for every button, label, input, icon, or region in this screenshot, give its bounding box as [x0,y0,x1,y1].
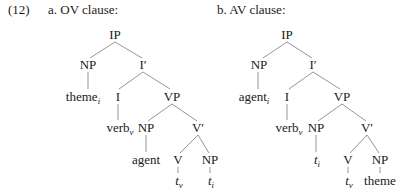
leaf-theme-i: themei [66,90,100,104]
node-i-bar: I′ [139,58,146,72]
node-vp: VP [164,90,181,104]
tree-a-heading: a. OV clause: [48,3,118,17]
node-ip: IP [109,28,121,42]
node-v-head: V [343,153,352,167]
leaf-trace-i: ti [208,174,214,188]
node-np-spec: NP [80,58,97,72]
node-v-head: V [173,153,182,167]
node-i-head: I [116,90,120,104]
tree-b-heading: b. AV clause: [217,3,286,17]
node-ip: IP [281,28,293,42]
example-number: (12) [8,3,30,17]
node-np-vp: NP [308,121,325,135]
node-i-head: I [285,90,289,104]
node-np-spec: NP [251,58,268,72]
node-vp: VP [334,90,351,104]
node-np-obj: NP [372,153,389,167]
node-np-obj: NP [202,153,219,167]
node-i-bar: I′ [309,58,316,72]
node-v-bar: V′ [192,121,204,135]
node-np-vp: NP [138,121,155,135]
leaf-agent-i: agenti [239,90,270,104]
leaf-verb-v: verbv [275,121,302,135]
leaf-agent: agent [132,153,160,167]
leaf-trace-i: ti [314,153,320,167]
leaf-verb-v: verbv [106,121,133,135]
leaf-trace-v: tv [175,174,183,188]
leaf-theme: theme [364,174,396,188]
leaf-trace-v: tv [345,174,353,188]
node-v-bar: V′ [361,121,373,135]
